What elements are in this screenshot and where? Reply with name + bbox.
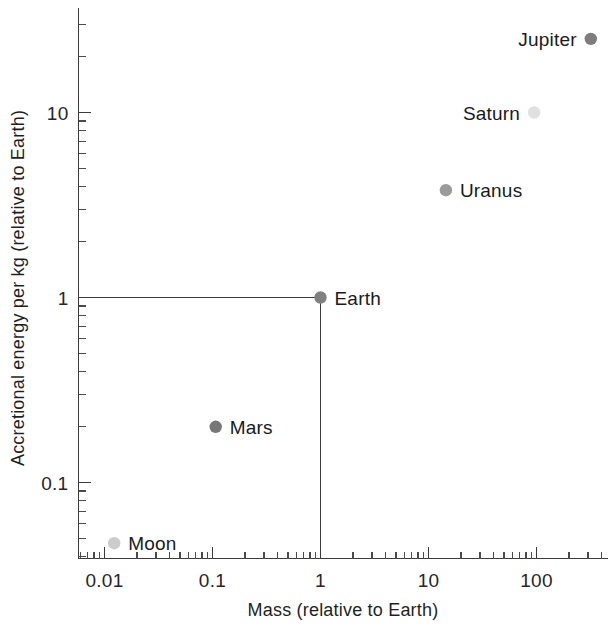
point-label: Saturn [463,103,520,124]
point-marker [314,291,326,303]
scatter-chart: 0.010.1110100 0.1110 MoonMarsEarthUranus… [0,0,611,629]
x-ticklabel: 1 [315,570,326,591]
point-label: Jupiter [518,29,577,50]
y-axis-ticks [79,24,91,556]
x-ticklabel: 0.1 [199,570,226,591]
data-points: MoonMarsEarthUranusSaturnJupiter [108,29,597,554]
x-ticklabel: 10 [418,570,440,591]
point-label: Moon [128,533,176,554]
plot-canvas: 0.010.1110100 0.1110 MoonMarsEarthUranus… [0,0,611,629]
data-point-saturn: Saturn [463,103,540,124]
reference-lines [79,298,321,559]
point-label: Uranus [460,180,522,201]
axis-spines [79,8,609,559]
x-ticklabel: 0.01 [85,570,123,591]
point-label: Earth [335,288,381,309]
y-ticklabel: 1 [58,288,69,309]
point-marker [585,33,597,45]
data-point-earth: Earth [314,288,381,309]
data-point-uranus: Uranus [440,180,523,201]
data-point-jupiter: Jupiter [518,29,597,50]
x-axis-title: Mass (relative to Earth) [248,600,439,620]
y-axis-title: Accretional energy per kg (relative to E… [8,110,28,466]
data-point-moon: Moon [108,533,177,554]
y-ticklabel: 10 [47,103,69,124]
point-marker [108,537,120,549]
point-label: Mars [230,417,273,438]
y-ticklabel: 0.1 [41,473,68,494]
x-axis-ticklabels: 0.010.1110100 [85,570,552,591]
point-marker [210,421,222,433]
data-point-mars: Mars [210,417,273,438]
x-ticklabel: 100 [520,570,553,591]
point-marker [440,184,452,196]
y-axis-ticklabels: 0.1110 [41,103,68,494]
point-marker [528,106,540,118]
